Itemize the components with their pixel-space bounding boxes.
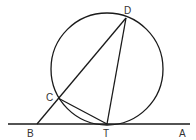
label-t: T	[103, 128, 109, 139]
label-b: B	[27, 128, 34, 139]
chord-dt	[107, 18, 126, 124]
label-a: A	[179, 128, 186, 139]
label-d: D	[124, 5, 131, 16]
chord-ct	[58, 98, 107, 124]
circle	[51, 13, 163, 125]
label-c: C	[46, 92, 53, 103]
secant-bd	[37, 18, 126, 124]
geometry-diagram: D C B T A	[0, 0, 196, 140]
